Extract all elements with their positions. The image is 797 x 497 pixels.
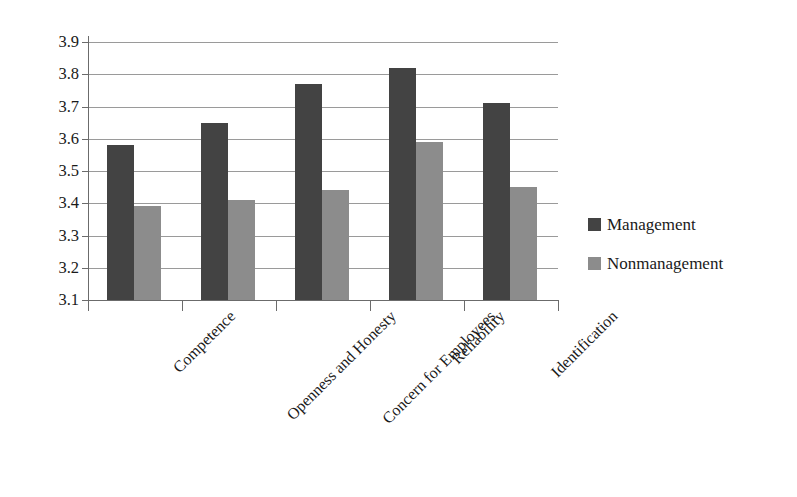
- legend-label-nonmanagement: Nonmanagement: [607, 255, 723, 272]
- x-axis-line: [88, 300, 559, 301]
- y-tick-label: 3.7: [58, 98, 79, 115]
- y-tick-label: 3.3: [58, 227, 79, 244]
- legend-label-management: Management: [607, 216, 696, 233]
- x-tick-mark: [464, 300, 465, 311]
- y-tick-mark: [82, 236, 89, 237]
- y-tick-mark: [82, 203, 89, 204]
- category-label-0: Competence: [170, 308, 238, 376]
- y-tick-label: 3.2: [58, 260, 79, 277]
- y-tick-label: 3.6: [58, 131, 79, 148]
- x-tick-mark: [370, 300, 371, 311]
- legend-item-management: Management: [588, 216, 723, 233]
- bar-management-0: [107, 145, 134, 300]
- bar-management-4: [483, 103, 510, 300]
- y-tick-label: 3.5: [58, 163, 79, 180]
- y-tick-mark: [82, 139, 89, 140]
- y-tick-mark: [82, 42, 89, 43]
- gridline: [88, 74, 558, 75]
- bar-nonmanagement-0: [134, 206, 161, 300]
- x-tick-mark: [88, 300, 89, 311]
- bar-management-1: [201, 123, 228, 300]
- y-tick-mark: [82, 74, 89, 75]
- y-tick-mark: [82, 107, 89, 108]
- bar-nonmanagement-1: [228, 200, 255, 300]
- y-tick-mark: [82, 268, 89, 269]
- category-label-1: Openness and Honesty: [284, 308, 399, 423]
- category-label-4: Identification: [548, 308, 620, 380]
- bar-management-2: [295, 84, 322, 300]
- bar-chart: 3.93.83.73.63.53.43.33.23.1 CompetenceOp…: [0, 0, 797, 497]
- y-tick-label: 3.9: [58, 34, 79, 51]
- y-tick-label: 3.4: [58, 195, 79, 212]
- y-tick-label: 3.1: [58, 292, 79, 309]
- y-tick-mark: [82, 171, 89, 172]
- gridline: [88, 42, 558, 43]
- legend-swatch-light-icon: [588, 257, 601, 270]
- bar-nonmanagement-3: [416, 142, 443, 300]
- legend-swatch-dark-icon: [588, 218, 601, 231]
- legend-item-nonmanagement: Nonmanagement: [588, 255, 723, 272]
- y-tick-label: 3.8: [58, 66, 79, 83]
- bar-nonmanagement-4: [510, 187, 537, 300]
- x-tick-mark: [276, 300, 277, 311]
- bar-management-3: [389, 68, 416, 300]
- bar-nonmanagement-2: [322, 190, 349, 300]
- chart-legend: Management Nonmanagement: [588, 216, 723, 294]
- x-tick-mark: [558, 300, 559, 311]
- x-tick-mark: [182, 300, 183, 311]
